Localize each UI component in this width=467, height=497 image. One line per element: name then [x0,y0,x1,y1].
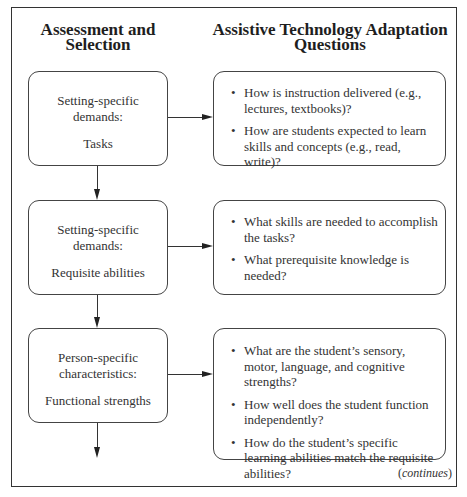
assessment-box-functional-strengths: Person-specific characteristics: Functio… [28,328,168,423]
arrow-right-icon [202,114,213,120]
question-item: What prerequisite knowledge is needed? [231,252,439,283]
right-header-line-2: Questions [205,37,455,52]
box-category-line-1: Setting-specific [29,93,167,109]
continues-note: (continues) [398,466,452,481]
left-column-header: Assessment and Selection [30,22,166,52]
arrow-down-icon [94,447,100,458]
questions-box-requisite-abilities: What skills are needed to accomplish the… [213,200,446,295]
connector-line [168,374,204,375]
assessment-box-tasks: Setting-specific demands: Tasks [28,71,168,166]
box-item: Tasks [29,136,167,152]
box-category-line-1: Person-specific [29,350,167,366]
box-category-line-1: Setting-specific [29,222,167,238]
question-item: What are the student’s sensory, motor, l… [231,343,439,390]
box-category-line-2: demands: [29,238,167,254]
assessment-box-requisite-abilities: Setting-specific demands: Requisite abil… [28,200,168,295]
questions-box-functional-strengths: What are the student’s sensory, motor, l… [213,328,446,460]
box-item: Functional strengths [29,393,167,409]
connector-line [168,246,204,247]
box-item: Requisite abilities [29,265,167,281]
connector-line [97,166,98,191]
question-item: How is instruction delivered (e.g., lect… [231,85,439,116]
box-category-line-2: characteristics: [29,366,167,382]
arrow-down-icon [94,317,100,328]
question-item: How are students expected to learn skill… [231,123,439,170]
arrow-right-icon [202,371,213,377]
arrow-right-icon [202,243,213,249]
arrow-down-icon [94,189,100,200]
question-item: How well does the student function indep… [231,397,439,428]
questions-box-tasks: How is instruction delivered (e.g., lect… [213,71,446,166]
right-column-header: Assistive Technology Adaptation Question… [205,22,455,52]
question-item: What skills are needed to accomplish the… [231,214,439,245]
left-header-line-2: Selection [30,37,166,52]
box-category-line-2: demands: [29,109,167,125]
connector-line [97,423,98,449]
connector-line [168,117,204,118]
connector-line [97,295,98,319]
